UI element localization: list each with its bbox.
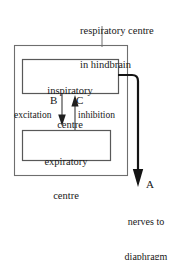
expiratory-centre-label: expiratory centre bbox=[22, 133, 110, 224]
pathway-a-arrowhead-down bbox=[133, 169, 143, 187]
inspiratory-label-line-1: inspiratory bbox=[22, 85, 118, 96]
pathway-b-description: excitation bbox=[14, 110, 51, 120]
expiratory-label-line-2: centre bbox=[22, 190, 110, 201]
pathway-b-letter: B bbox=[50, 95, 57, 107]
nerve-caption-line-1: nerves to bbox=[106, 216, 186, 228]
nerve-output-caption: nerves to diaphragm and intercostal musc… bbox=[106, 192, 186, 260]
expiratory-label-line-1: expiratory bbox=[22, 156, 110, 167]
pathway-a-letter: A bbox=[146, 179, 154, 191]
nerve-caption-line-2: diaphragm bbox=[106, 251, 186, 260]
respiratory-control-diagram: respiratory centre in hindbrain inspirat… bbox=[0, 0, 192, 260]
pathway-c-letter: C bbox=[76, 95, 83, 107]
annotation-line-1: respiratory centre bbox=[80, 25, 154, 36]
inspiratory-label-line-2: centre bbox=[22, 119, 118, 130]
pathway-c-description: inhibition bbox=[78, 110, 115, 120]
